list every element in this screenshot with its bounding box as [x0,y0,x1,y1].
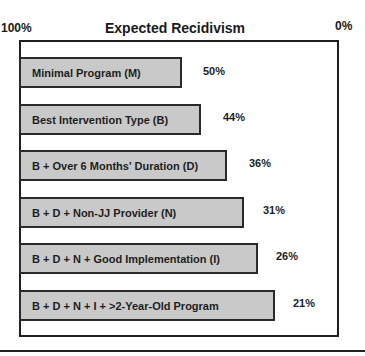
bar-value: 50% [203,65,225,77]
bar-two-year-old-program: B + D + N + I + >2-Year-Old Program [19,290,275,321]
bar-value: 21% [293,297,315,309]
bar-label: B + D + N + I + >2-Year-Old Program [32,300,219,312]
bar-best-intervention: Best Intervention Type (B) [19,104,201,135]
axis-right-label: 0% [335,19,352,33]
bar-value: 31% [263,204,285,216]
chart-title: Expected Recidivism [105,20,245,36]
bar-value: 36% [249,157,271,169]
bottom-rule [0,350,365,352]
bar-non-jj-provider: B + D + Non-JJ Provider (N) [19,197,244,228]
bar-good-implementation: B + D + N + Good Implementation (I) [19,243,258,274]
bar-value: 44% [223,111,245,123]
axis-left-label: 100% [1,21,32,35]
bar-label: B + Over 6 Months' Duration (D) [32,160,198,172]
bar-value: 26% [276,250,298,262]
bar-label: Best Intervention Type (B) [32,114,168,126]
bar-label: B + D + Non-JJ Provider (N) [32,207,176,219]
bar-label: Minimal Program (M) [32,67,141,79]
bar-label: B + D + N + Good Implementation (I) [32,253,220,265]
bar-duration: B + Over 6 Months' Duration (D) [19,150,227,181]
bar-minimal-program: Minimal Program (M) [19,57,182,88]
